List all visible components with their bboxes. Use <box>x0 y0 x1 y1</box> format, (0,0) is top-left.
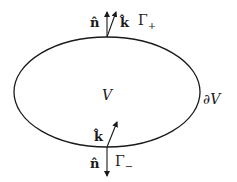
gamma-minus-label: Γ− <box>115 153 133 172</box>
diagram-canvas: n̂ k̂ Γ+ V ∂V k̂ n̂ Γ− <box>0 0 237 182</box>
region-label: V <box>102 87 114 103</box>
top-k-label: k̂ <box>119 14 130 30</box>
top-normal-label: n̂ <box>90 15 100 30</box>
bottom-normal-label: n̂ <box>90 156 100 171</box>
gamma-plus-label: Γ+ <box>138 12 156 31</box>
bottom-k-label: k̂ <box>93 128 104 144</box>
boundary-diagram: n̂ k̂ Γ+ V ∂V k̂ n̂ Γ− <box>0 0 237 182</box>
boundary-label: ∂V <box>203 91 222 107</box>
bottom-k-arrow <box>107 122 117 147</box>
top-k-arrow <box>107 12 116 37</box>
